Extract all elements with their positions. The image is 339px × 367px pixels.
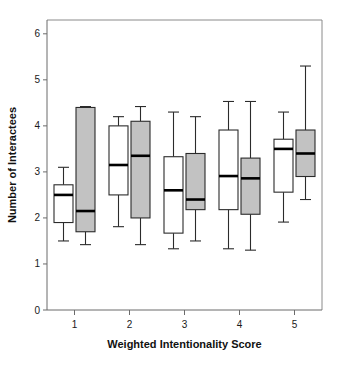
y-tick-label: 6 [34, 28, 40, 39]
x-tick-label: 4 [237, 319, 243, 330]
box-rect [54, 185, 73, 223]
box-rect [164, 157, 183, 233]
box-rect [109, 126, 128, 195]
box-plot-box [164, 112, 183, 249]
box-plot-box [131, 107, 150, 245]
box-plot-box [274, 112, 293, 222]
y-tick-label: 5 [34, 74, 40, 85]
box-plot-box [109, 117, 128, 227]
box-plot-series [54, 66, 315, 250]
y-tick-label: 4 [34, 120, 40, 131]
box-plot-box [54, 167, 73, 241]
y-axis-title: Number of Interactees [6, 107, 18, 223]
box-rect [186, 153, 205, 209]
boxplot-chart: 0123456 12345 Number of Interactees Weig… [0, 0, 339, 367]
box-rect [219, 130, 238, 210]
y-tick-label: 1 [34, 258, 40, 269]
y-axis: 0123456 [34, 20, 47, 316]
x-tick-label: 2 [127, 319, 133, 330]
box-rect [76, 107, 95, 231]
box-rect [274, 139, 293, 192]
chart-canvas: 0123456 12345 Number of Interactees Weig… [0, 0, 339, 367]
box-plot-box [186, 117, 205, 241]
x-axis-title: Weighted Intentionality Score [107, 338, 261, 350]
box-plot-box [241, 101, 260, 250]
box-plot-box [76, 107, 95, 245]
box-plot-box [296, 66, 315, 199]
x-axis: 12345 [47, 310, 322, 330]
x-tick-label: 3 [182, 319, 188, 330]
y-tick-label: 2 [34, 212, 40, 223]
y-tick-label: 3 [34, 166, 40, 177]
x-tick-label: 5 [292, 319, 298, 330]
y-tick-label: 0 [34, 305, 40, 316]
box-rect [241, 158, 260, 214]
x-tick-label: 1 [72, 319, 78, 330]
box-plot-box [219, 101, 238, 248]
box-rect [131, 121, 150, 218]
